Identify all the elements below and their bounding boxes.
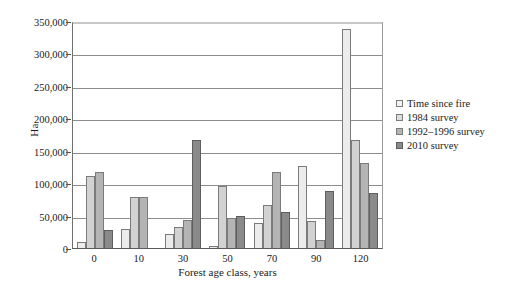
bar <box>360 163 369 248</box>
legend: Time since fire1984 survey1992–1996 surv… <box>396 96 504 152</box>
legend-label: Time since fire <box>407 98 470 109</box>
x-tick-label: 90 <box>294 249 338 265</box>
x-tick-label: 120 <box>339 249 383 265</box>
bar <box>209 246 218 248</box>
bar <box>218 186 227 248</box>
x-tick-label: 30 <box>161 249 205 265</box>
bar <box>165 234 174 248</box>
bar-group <box>73 23 117 248</box>
y-tick-label: 150,000 <box>6 146 68 157</box>
legend-item: Time since fire <box>396 96 504 110</box>
legend-label: 1992–1996 survey <box>407 126 485 137</box>
bar <box>254 223 263 248</box>
legend-item: 1984 survey <box>396 110 504 124</box>
legend-label: 1984 survey <box>407 112 459 123</box>
bar <box>121 229 130 248</box>
bar <box>351 140 360 248</box>
y-tick-label: 100,000 <box>6 179 68 190</box>
bar <box>298 166 307 248</box>
plot-area <box>72 22 383 249</box>
x-tick-label: 10 <box>116 249 160 265</box>
y-tick-mark <box>66 249 71 250</box>
legend-label: 2010 survey <box>407 140 459 151</box>
bar-group <box>250 23 294 248</box>
bar <box>104 230 113 248</box>
y-tick-label: 300,000 <box>6 49 68 60</box>
y-tick-mark <box>66 54 71 55</box>
bar <box>325 191 334 248</box>
bar <box>183 220 192 248</box>
y-tick-label: 250,000 <box>6 81 68 92</box>
bar <box>95 172 104 248</box>
legend-swatch-icon <box>396 128 403 135</box>
y-axis-ticks: 050,000100,000150,000200,000250,000300,0… <box>0 22 68 249</box>
bar-groups <box>73 23 382 248</box>
bar <box>77 242 86 248</box>
bar-group <box>294 23 338 248</box>
bar <box>192 140 201 248</box>
x-axis-ticks: 01030507090120 <box>72 249 383 265</box>
y-tick-mark <box>66 22 71 23</box>
bar <box>369 193 378 248</box>
bar-group <box>338 23 382 248</box>
bar <box>139 197 148 248</box>
legend-item: 1992–1996 survey <box>396 124 504 138</box>
bar <box>86 176 95 248</box>
y-tick-label: 50,000 <box>6 211 68 222</box>
x-tick-label: 70 <box>250 249 294 265</box>
bar-group <box>205 23 249 248</box>
legend-item: 2010 survey <box>396 138 504 152</box>
x-tick-label: 50 <box>205 249 249 265</box>
y-tick-label: 200,000 <box>6 114 68 125</box>
y-tick-mark <box>66 152 71 153</box>
bar-group <box>161 23 205 248</box>
bar <box>316 240 325 248</box>
bar <box>342 29 351 248</box>
y-tick-label: 350,000 <box>6 17 68 28</box>
bar-chart: Ha 050,000100,000150,000200,000250,00030… <box>0 0 506 289</box>
bar-group <box>117 23 161 248</box>
bar <box>227 218 236 248</box>
y-tick-mark <box>66 184 71 185</box>
bar <box>130 197 139 248</box>
y-tick-mark <box>66 217 71 218</box>
bar <box>236 216 245 248</box>
bar <box>281 212 290 248</box>
bar <box>263 205 272 248</box>
x-tick-label: 0 <box>72 249 116 265</box>
legend-swatch-icon <box>396 100 403 107</box>
y-tick-label: 0 <box>6 244 68 255</box>
bar <box>174 227 183 248</box>
bar <box>307 221 316 248</box>
y-tick-mark <box>66 87 71 88</box>
bar <box>272 172 281 248</box>
x-axis-title: Forest age class, years <box>72 266 383 278</box>
y-tick-mark <box>66 119 71 120</box>
legend-swatch-icon <box>396 114 403 121</box>
legend-swatch-icon <box>396 142 403 149</box>
